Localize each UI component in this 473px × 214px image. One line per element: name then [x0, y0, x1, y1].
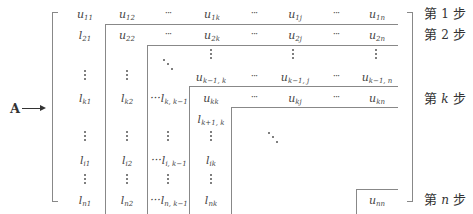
cell-u11: u11 — [77, 9, 93, 22]
vdots-col-n — [375, 49, 377, 61]
cell-li2: li2 — [122, 155, 132, 168]
frame-k-1-vertical — [189, 86, 190, 214]
cell-l-k+1-k: lk+1, k — [198, 114, 225, 127]
cell-l-i-k-1: ···li, k−1 — [151, 155, 186, 168]
vdots-col-k — [210, 49, 212, 61]
vdots-col-j — [292, 49, 294, 61]
frame-2-vertical — [147, 45, 148, 214]
cell-u2n: u2n — [369, 30, 385, 43]
vdots-col-1-upper — [84, 70, 86, 82]
cell-l-n-k-1: ···ln, k−1 — [150, 195, 188, 208]
cell-u12: u12 — [119, 9, 135, 22]
step-label-n: 第 n 步 — [424, 193, 466, 206]
left-bracket-top — [52, 12, 58, 13]
arrow-head-icon — [40, 105, 46, 111]
vdots-col-1-low — [84, 174, 86, 186]
left-bracket-bottom — [52, 201, 58, 202]
right-bracket-top — [407, 12, 413, 13]
vdots-col-2-low — [126, 174, 128, 186]
right-bracket-bottom — [407, 201, 413, 202]
cell-u-k-1-n: uk−1, n — [362, 72, 393, 85]
vdots-col-k-mid — [210, 131, 212, 143]
frame-k-vertical — [231, 107, 232, 214]
hdots: ··· — [251, 29, 258, 39]
right-bracket-vertical — [412, 12, 413, 202]
frame-k-1-horizontal — [189, 86, 398, 87]
hdots: ··· — [333, 71, 340, 81]
cell-ln1: ln1 — [79, 195, 92, 208]
frame-n-vertical — [356, 189, 357, 214]
hdots: ··· — [333, 29, 340, 39]
cell-unn: unn — [369, 195, 385, 208]
cell-ukn: ukn — [369, 93, 385, 106]
hdots: ··· — [251, 71, 258, 81]
left-bracket-vertical — [52, 12, 53, 202]
cell-ukk: ukk — [203, 93, 219, 106]
hdots: ··· — [333, 8, 340, 18]
cell-u1j: u1j — [288, 9, 302, 22]
matrix-label-A: A — [10, 101, 20, 116]
vdots-col-k-low — [210, 174, 212, 186]
cell-u1k: u1k — [204, 9, 220, 22]
cell-u2k: u2k — [204, 30, 220, 43]
vdots-col-2-mid — [126, 131, 128, 143]
cell-ukj: ukj — [288, 93, 302, 106]
frame-2-horizontal — [147, 45, 398, 46]
hdots: ··· — [165, 8, 172, 18]
frame-k-horizontal — [231, 107, 398, 108]
cell-u-k-1-j: uk−1, j — [281, 72, 309, 85]
vdots-col-k-1-mid — [167, 131, 169, 143]
cell-u2j: u2j — [288, 30, 302, 43]
step-label-2: 第 2 步 — [424, 28, 466, 41]
vdots-col-2-upper — [126, 70, 128, 82]
cell-lk1: lk1 — [79, 93, 91, 106]
cell-u-k-1-k: uk−1, k — [196, 72, 226, 85]
cell-lik: lik — [206, 155, 216, 168]
cell-l-k-k-1: ···lk, k−1 — [150, 93, 187, 106]
cell-u1n: u1n — [369, 9, 385, 22]
arrow-line — [22, 108, 42, 109]
hdots: ··· — [165, 29, 172, 39]
cell-ln2: ln2 — [121, 195, 134, 208]
step-label-k: 第 k 步 — [424, 92, 466, 105]
cell-u22: u22 — [119, 30, 135, 43]
frame-1-vertical — [105, 24, 106, 214]
frame-1-horizontal — [105, 24, 398, 25]
frame-n-horizontal — [356, 189, 398, 190]
vdots-col-k-1-low — [167, 174, 169, 186]
vdots-col-1-mid — [84, 131, 86, 143]
step-label-1: 第 1 步 — [424, 7, 466, 20]
cell-l21: l21 — [79, 30, 91, 43]
hdots: ··· — [333, 92, 340, 102]
cell-lnk: lnk — [205, 195, 217, 208]
hdots: ··· — [251, 8, 258, 18]
cell-li1: li1 — [80, 155, 90, 168]
cell-lk2: lk2 — [121, 93, 133, 106]
hdots: ··· — [251, 92, 258, 102]
